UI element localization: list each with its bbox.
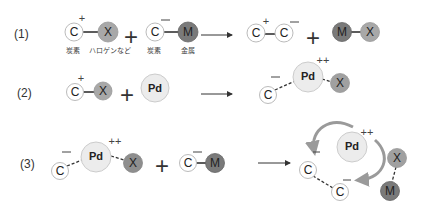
palladium-atom: Pd: [81, 142, 111, 172]
svg-text:Pd: Pd: [148, 82, 162, 94]
svg-text:M: M: [385, 184, 395, 198]
svg-text:X: X: [393, 151, 401, 165]
carbon-atom: C: [65, 23, 83, 41]
carbon-atom: C: [332, 184, 349, 201]
coordination-bond: [67, 160, 82, 166]
charge-plus: +: [78, 72, 84, 84]
svg-text:C: C: [151, 25, 160, 39]
halogen-atom: X: [98, 22, 118, 42]
row-2: (2) C + X + Pd C Pd ++: [17, 54, 350, 108]
cross-coupling-diagram: (1) C + X + C M 炭素 ハロゲンなど 炭素 金属: [0, 0, 426, 214]
svg-text:M: M: [183, 25, 193, 39]
metal-atom: M: [381, 182, 400, 201]
halogen-atom: X: [388, 149, 407, 168]
row-1: (1) C + X + C M 炭素 ハロゲンなど 炭素 金属: [14, 12, 380, 55]
halogen-atom: X: [331, 74, 350, 93]
svg-text:X: X: [336, 76, 344, 90]
svg-text:C: C: [70, 25, 79, 39]
svg-text:C: C: [336, 185, 345, 199]
carbon-atom: C: [67, 84, 84, 101]
palladium-atom: Pd: [293, 62, 323, 92]
svg-text:Pd: Pd: [345, 140, 359, 152]
svg-text:C: C: [264, 88, 273, 102]
charge-double-plus: ++: [109, 135, 122, 147]
caption-carbon: 炭素: [66, 46, 80, 55]
row-label: (1): [14, 27, 29, 41]
svg-text:C: C: [184, 156, 193, 170]
svg-text:X: X: [366, 25, 374, 39]
metal-atom: M: [178, 22, 198, 42]
carbon-atom: C: [300, 162, 317, 179]
plus-sign: +: [155, 152, 169, 179]
caption-halogen: ハロゲンなど: [89, 46, 131, 55]
coordination-bond: [392, 167, 396, 182]
charge-plus: +: [263, 15, 269, 27]
svg-text:C: C: [280, 26, 289, 40]
svg-text:X: X: [129, 156, 137, 170]
coordination-bond: [313, 176, 333, 188]
carbon-atom: C: [275, 24, 293, 42]
plus-sign: +: [124, 23, 138, 50]
svg-text:Pd: Pd: [89, 150, 103, 162]
carbon-atom: C: [260, 87, 277, 104]
svg-text:C: C: [71, 85, 80, 99]
coordination-bond: [111, 156, 124, 160]
metal-atom: M: [206, 154, 225, 173]
charge-double-plus: ++: [317, 54, 330, 66]
caption-metal: 金属: [181, 46, 195, 55]
plus-sign: +: [120, 81, 134, 108]
charge-plus: +: [79, 12, 85, 24]
svg-text:C: C: [252, 26, 261, 40]
row-label: (2): [17, 86, 32, 100]
halogen-atom: X: [361, 23, 380, 42]
carbon-atom: C: [180, 155, 197, 172]
caption-carbon: 炭素: [147, 46, 161, 55]
svg-text:C: C: [56, 164, 65, 178]
palladium-atom: Pd: [141, 74, 169, 102]
svg-text:X: X: [104, 25, 112, 39]
coordination-bond: [275, 81, 295, 90]
svg-text:M: M: [210, 156, 220, 170]
carbon-atom: C: [52, 163, 69, 180]
plus-sign: +: [306, 24, 320, 51]
metal-atom: M: [333, 23, 352, 42]
svg-text:C: C: [304, 163, 313, 177]
charge-double-plus: ++: [361, 126, 374, 138]
svg-text:X: X: [99, 84, 107, 98]
halogen-atom: X: [124, 154, 143, 173]
row-3: (3) C Pd ++ X + C M: [20, 123, 407, 201]
carbon-atom: C: [146, 23, 164, 41]
halogen-atom: X: [94, 82, 112, 100]
svg-text:Pd: Pd: [301, 70, 315, 82]
svg-text:M: M: [337, 25, 347, 39]
row-label: (3): [20, 157, 35, 171]
